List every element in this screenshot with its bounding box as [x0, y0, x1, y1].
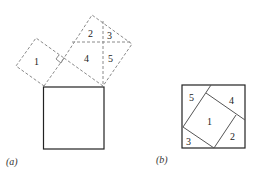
piece-label-3: 3: [107, 30, 112, 41]
caption-b: (b): [156, 154, 168, 166]
piece-label-4: 4: [229, 95, 234, 106]
piece-label-4: 4: [84, 53, 89, 64]
panel-b: 5 4 1 2 3 (b): [156, 85, 245, 166]
pythagorean-dissection-diagram: 1 2 3 4 5 (a) 5 4 1 2 3 (b): [0, 0, 257, 175]
hypotenuse-square: [44, 87, 105, 149]
large-leg-square: [64, 15, 132, 86]
caption-a: (a): [6, 156, 18, 168]
piece-label-2: 2: [230, 131, 235, 142]
piece-label-3: 3: [186, 136, 191, 147]
small-leg-square: [16, 38, 64, 86]
piece-label-1: 1: [207, 116, 212, 127]
piece-label-2: 2: [88, 28, 93, 39]
panel-a: 1 2 3 4 5 (a): [6, 15, 132, 168]
piece-label-5: 5: [189, 92, 194, 103]
piece-label-5: 5: [108, 53, 113, 64]
piece-label-1: 1: [34, 56, 39, 67]
